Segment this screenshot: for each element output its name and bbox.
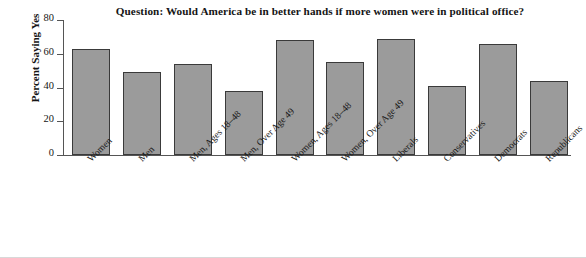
y-tick-mark — [57, 88, 64, 89]
y-tick: 40 — [63, 88, 64, 89]
y-tick: 60 — [63, 54, 64, 55]
y-tick: 20 — [63, 121, 64, 122]
y-tick-mark — [57, 121, 64, 122]
y-tick-mark — [57, 54, 64, 55]
y-tick: 80 — [63, 20, 64, 21]
y-tick-mark — [57, 20, 64, 21]
y-axis-label: Percent Saying Yes — [29, 3, 41, 113]
y-tick-label: 60 — [44, 46, 55, 57]
chart-figure: Question: Would America be in better han… — [0, 0, 586, 258]
bar — [123, 72, 161, 155]
y-tick-label: 0 — [49, 147, 54, 158]
chart-title: Question: Would America be in better han… — [60, 5, 580, 17]
x-axis-tick-labels: WomenMenMen, Ages 18–48Men, Over Age 49W… — [63, 156, 586, 256]
y-tick-label: 80 — [44, 12, 55, 23]
y-tick-label: 40 — [44, 80, 55, 91]
y-tick-label: 20 — [44, 113, 55, 124]
